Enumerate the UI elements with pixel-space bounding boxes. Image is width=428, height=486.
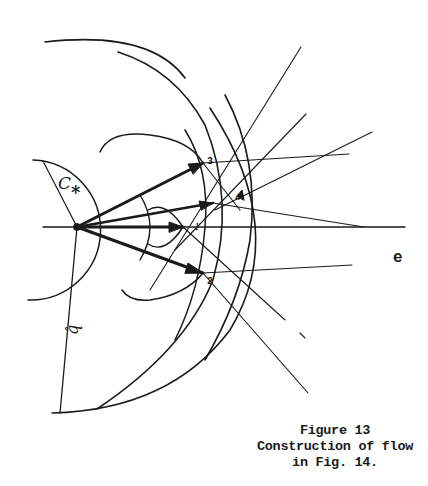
point-2-label: 2 — [207, 276, 213, 287]
diagram-canvas: C * q̂ e 3 1 2 4 — [0, 0, 428, 486]
vector-to-2 — [77, 227, 203, 273]
e-axis-label: e — [393, 249, 403, 267]
outer-arc-large-lower — [52, 108, 256, 413]
q-hat-label: q̂ — [63, 325, 82, 335]
c-star-sub-label: * — [71, 182, 81, 203]
q-hat-line — [60, 227, 77, 413]
mid-arc-3-2 — [175, 130, 206, 340]
caption-line-3: in Fig. 14. — [240, 455, 428, 471]
caption-line-1: Figure 13 — [240, 423, 428, 439]
ray-lower-dash — [300, 333, 305, 338]
lower-lobe-arc — [122, 273, 203, 300]
ray-from-3 — [203, 154, 349, 163]
point-4-label: 4 — [235, 193, 241, 203]
flow-construction-figure: C * q̂ e 3 1 2 4 Figure 13 Construction … — [0, 0, 428, 486]
point-1-label: 1 — [194, 221, 200, 232]
origin-point — [74, 224, 81, 231]
vector-to-3 — [77, 163, 203, 227]
figure-caption: Figure 13 Construction of flow in Fig. 1… — [240, 423, 428, 471]
ray-from-4 — [213, 203, 364, 227]
caption-line-2: Construction of flow — [240, 439, 428, 455]
upper-lobe-arc — [100, 134, 203, 163]
inner-large-arc — [97, 52, 222, 409]
outer-arc-large — [45, 40, 185, 78]
c-star-label: C — [58, 173, 71, 193]
point-3-label: 3 — [207, 156, 213, 167]
